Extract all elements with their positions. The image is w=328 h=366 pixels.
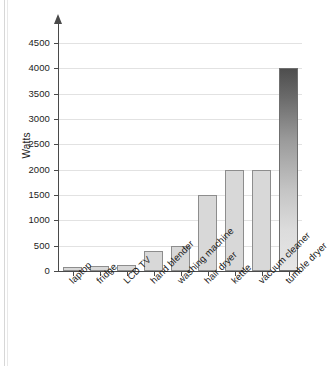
- y-axis-tick-label: 1000: [28, 215, 50, 225]
- y-axis-tick-label: 3500: [28, 89, 50, 99]
- bar: [252, 170, 271, 271]
- y-axis-tick-labels: 050010001500200025003000350040004500: [0, 0, 50, 366]
- y-axis-tick-label: 500: [34, 241, 50, 251]
- y-axis-tick-label: 2000: [28, 165, 50, 175]
- gridline: [59, 94, 302, 95]
- y-axis-tick-mark: [54, 68, 59, 69]
- y-axis-tick-mark: [54, 195, 59, 196]
- gridline: [59, 119, 302, 120]
- y-axis-tick-mark: [54, 94, 59, 95]
- y-axis-tick-mark: [54, 220, 59, 221]
- y-axis-tick-mark: [54, 170, 59, 171]
- y-axis-tick-label: 2500: [28, 139, 50, 149]
- y-axis-tick-label: 1500: [28, 190, 50, 200]
- gridline: [59, 68, 302, 69]
- y-axis-tick-mark: [54, 271, 59, 272]
- y-axis-tick-mark: [54, 144, 59, 145]
- y-axis-tick-label: 3000: [28, 114, 50, 124]
- y-axis-title: Watts: [21, 116, 32, 176]
- gridline: [59, 43, 302, 44]
- y-axis-tick-label: 4000: [28, 63, 50, 73]
- y-axis-arrow-icon: [54, 14, 62, 24]
- y-axis-tick-label: 0: [45, 266, 50, 276]
- y-axis-tick-label: 4500: [28, 38, 50, 48]
- plot-area: [59, 43, 302, 271]
- y-axis-tick-mark: [54, 119, 59, 120]
- gridline: [59, 144, 302, 145]
- y-axis-tick-mark: [54, 246, 59, 247]
- y-axis-tick-mark: [54, 43, 59, 44]
